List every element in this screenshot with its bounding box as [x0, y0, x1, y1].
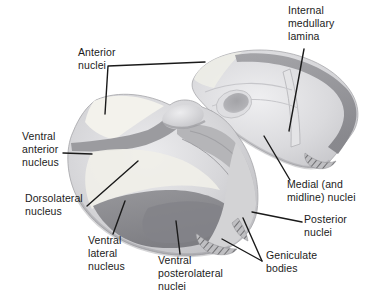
label-text-line: nuclei: [78, 59, 116, 72]
label-ventral-lateral-nucleus: Ventral lateral nucleus: [88, 234, 125, 273]
label-text-line: Internal: [288, 4, 334, 17]
label-text-line: Dorsolateral: [25, 192, 83, 205]
label-posterior-nuclei: Posterior nuclei: [304, 213, 347, 239]
label-internal-medullary-lamina: Internal medullary lamina: [288, 4, 334, 43]
label-text-line: lamina: [288, 30, 334, 43]
label-text-line: posterolateral: [158, 267, 223, 280]
label-text-line: Ventral: [158, 254, 223, 267]
label-ventral-anterior-nucleus: Ventral anterior nucleus: [22, 130, 59, 169]
label-geniculate-bodies: Geniculate bodies: [266, 249, 317, 275]
label-text-line: nucleus: [22, 156, 59, 169]
label-text-line: anterior: [22, 143, 59, 156]
label-anterior-nuclei: Anterior nuclei: [78, 46, 116, 72]
label-medial-midline-nuclei: Medial (and midline) nuclei: [287, 178, 356, 204]
label-text-line: midline) nuclei: [287, 191, 356, 204]
label-text-line: Anterior: [78, 46, 116, 59]
label-text-line: Posterior: [304, 213, 347, 226]
thalamus-diagram: Anterior nuclei Internal medullary lamin…: [0, 0, 376, 305]
leader-posterior-nuclei: [252, 212, 302, 222]
label-text-line: bodies: [266, 262, 317, 275]
label-ventral-posterolateral-nuclei: Ventral posterolateral nuclei: [158, 254, 223, 293]
label-text-line: nuclei: [158, 280, 223, 293]
label-text-line: lateral: [88, 247, 125, 260]
label-text-line: medullary: [288, 17, 334, 30]
label-text-line: nucleus: [88, 260, 125, 273]
label-text-line: Ventral: [22, 130, 59, 143]
label-text-line: nucleus: [25, 205, 83, 218]
leader-ventral-anterior-nucleus: [63, 153, 92, 154]
label-text-line: nuclei: [304, 226, 347, 239]
label-text-line: Geniculate: [266, 249, 317, 262]
label-dorsolateral-nucleus: Dorsolateral nucleus: [25, 192, 83, 218]
label-text-line: Ventral: [88, 234, 125, 247]
label-text-line: Medial (and: [287, 178, 356, 191]
